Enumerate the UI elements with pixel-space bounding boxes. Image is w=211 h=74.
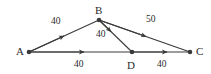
edge-weight-b-c: 50 xyxy=(146,15,156,25)
node-label-a: A xyxy=(16,46,24,57)
node-dot-d xyxy=(130,50,135,55)
edge-b-c-arrowhead-icon xyxy=(99,20,146,37)
node-dot-a xyxy=(27,50,32,55)
edge-weight-a-d: 40 xyxy=(74,60,84,70)
edge-a-b-arrowhead-icon xyxy=(29,36,64,52)
edge-a-b xyxy=(29,20,99,52)
node-label-b: B xyxy=(95,5,102,16)
edge-b-c xyxy=(99,20,190,52)
node-dot-c xyxy=(188,50,193,55)
node-label-d: D xyxy=(127,60,135,71)
graph-diagram: A B C D 40 50 40 40 40 xyxy=(0,0,211,74)
node-dot-b xyxy=(97,18,102,23)
edge-weight-b-d: 40 xyxy=(96,30,106,40)
node-label-c: C xyxy=(196,46,203,57)
edge-weight-a-b: 40 xyxy=(51,17,61,27)
edge-weight-d-c: 40 xyxy=(157,60,167,70)
